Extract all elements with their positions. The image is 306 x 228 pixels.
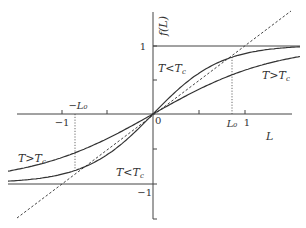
- magnetization-diagram: f(L) 1 −1 0 −1 1 L L₀ −L₀ T<Tc T>Tc T>Tc…: [0, 0, 306, 228]
- label-t-below-tc-upper: T<Tc: [158, 62, 186, 76]
- y-ticks: [153, 46, 157, 219]
- neg-l0-label: −L₀: [68, 100, 87, 111]
- l0-label: L₀: [226, 118, 238, 129]
- y-axis-label: f(L): [157, 16, 170, 37]
- label-t-above-tc-upper: T>Tc: [262, 69, 290, 83]
- x-tick-label-neg1: −1: [55, 117, 70, 128]
- origin-label: 0: [155, 115, 161, 126]
- y-tick-label-1: 1: [140, 41, 146, 52]
- label-t-below-tc-lower: T<Tc: [116, 166, 144, 180]
- x-axis-label: L: [265, 130, 273, 143]
- y-tick-label-neg1: −1: [137, 187, 152, 198]
- x-tick-label-1: 1: [244, 117, 250, 128]
- label-t-above-tc-lower: T>Tc: [18, 152, 46, 166]
